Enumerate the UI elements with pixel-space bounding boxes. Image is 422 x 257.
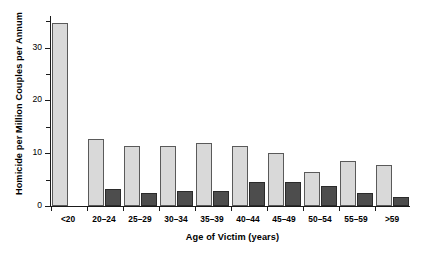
bar-dark: [357, 193, 373, 206]
bar-light: [160, 146, 176, 206]
bar-dark: [105, 189, 121, 206]
plot-area: 0102030 <2020–2425–2930–3435–3940–4445–4…: [50, 16, 410, 207]
bar-light: [52, 23, 68, 206]
x-category-label: 20–24: [86, 214, 122, 224]
bar-dark: [393, 197, 409, 206]
bar-group: [158, 16, 194, 206]
y-tick-label: 20: [32, 94, 42, 105]
x-tick: [159, 206, 160, 211]
x-category-label: <20: [50, 214, 86, 224]
bar-group: [50, 16, 86, 206]
bar-group: [230, 16, 266, 206]
bar-group: [374, 16, 410, 206]
bar-dark: [321, 186, 337, 206]
x-category-label: 35–39: [194, 214, 230, 224]
x-category-label: 50–54: [302, 214, 338, 224]
x-category-label: 45–49: [266, 214, 302, 224]
bar-light: [268, 153, 284, 206]
x-category-label: 55–59: [338, 214, 374, 224]
bar-dark: [285, 182, 301, 206]
x-axis-line: [50, 206, 410, 207]
bar-light: [232, 146, 248, 206]
x-tick: [303, 206, 304, 211]
bar-light: [340, 161, 356, 206]
x-axis-title: Age of Victim (years): [55, 232, 410, 242]
bar-light: [124, 146, 140, 206]
x-tick: [231, 206, 232, 211]
bar-light: [88, 139, 104, 206]
x-tick: [123, 206, 124, 211]
bar-light: [196, 143, 212, 206]
x-tick: [195, 206, 196, 211]
bar-group: [86, 16, 122, 206]
x-tick: [51, 206, 52, 211]
bar-group: [266, 16, 302, 206]
x-tick: [87, 206, 88, 211]
bar-group: [122, 16, 158, 206]
x-category-label: 40–44: [230, 214, 266, 224]
x-category-label: >59: [374, 214, 410, 224]
bar-chart-figure: Homicide per Million Couples per Annum 0…: [0, 0, 422, 257]
y-axis-title: Homicide per Million Couples per Annum: [8, 0, 30, 207]
bar-dark: [249, 182, 265, 206]
y-tick-label: 30: [32, 42, 42, 53]
bar-group: [302, 16, 338, 206]
x-tick: [375, 206, 376, 211]
x-tick: [267, 206, 268, 211]
bar-group: [338, 16, 374, 206]
bar-dark: [177, 191, 193, 206]
y-tick-label: 0: [37, 200, 42, 211]
x-tick: [339, 206, 340, 211]
bar-light: [304, 172, 320, 206]
y-tick-label: 10: [32, 147, 42, 158]
bar-dark: [141, 193, 157, 206]
bar-light: [376, 165, 392, 206]
bar-dark: [213, 191, 229, 206]
x-category-label: 30–34: [158, 214, 194, 224]
bar-group: [194, 16, 230, 206]
x-category-label: 25–29: [122, 214, 158, 224]
